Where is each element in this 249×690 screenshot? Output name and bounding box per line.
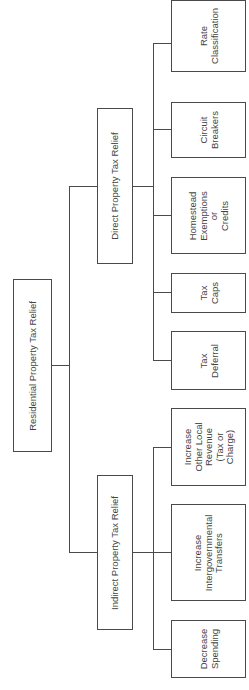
leaf-label: Decrease Spending (198, 629, 219, 670)
connector (133, 186, 153, 187)
leaf-node: Circuit Breakers (171, 102, 246, 158)
connector (69, 186, 97, 187)
leaf-label: Tax Deferral (198, 344, 219, 378)
leaf-node: Decrease Spending (171, 620, 246, 678)
leaf-node: Tax Deferral (171, 331, 246, 390)
leaf-label: Homestead Exemptions or Credits (188, 191, 230, 241)
connector (69, 552, 97, 553)
leaf-label: Rate Classification (198, 8, 219, 64)
root-node: Residential Property Tax Relief (13, 279, 52, 452)
leaf-label: Circuit Breakers (198, 111, 219, 149)
leaf-label: Tax Caps (198, 282, 219, 304)
leaf-node: Increase Intergovernmental Transfers (171, 504, 246, 601)
connector (153, 360, 171, 361)
leaf-label: Increase Other Local Revenue (Tax or Cha… (182, 422, 235, 471)
branch-node-direct: Direct Property Tax Relief (97, 108, 133, 264)
leaf-label: Increase Intergovernmental Transfers (193, 514, 225, 591)
connector (153, 447, 171, 448)
connector (153, 43, 154, 361)
root-label: Residential Property Tax Relief (27, 301, 38, 431)
branch-label: Indirect Property Tax Relief (110, 496, 121, 610)
leaf-node: Homestead Exemptions or Credits (171, 177, 246, 254)
connector (153, 129, 171, 130)
connector (133, 552, 153, 553)
connector (153, 447, 154, 649)
connector (153, 649, 171, 650)
connector (52, 365, 69, 366)
connector (69, 186, 70, 553)
connector (153, 215, 171, 216)
leaf-node: Rate Classification (171, 0, 246, 72)
leaf-node: Increase Other Local Revenue (Tax or Cha… (171, 408, 246, 486)
branch-node-indirect: Indirect Property Tax Relief (97, 475, 133, 630)
connector (153, 292, 171, 293)
connector (153, 43, 171, 44)
branch-label: Direct Property Tax Relief (110, 132, 121, 240)
connector (153, 552, 171, 553)
leaf-node: Tax Caps (171, 273, 246, 313)
